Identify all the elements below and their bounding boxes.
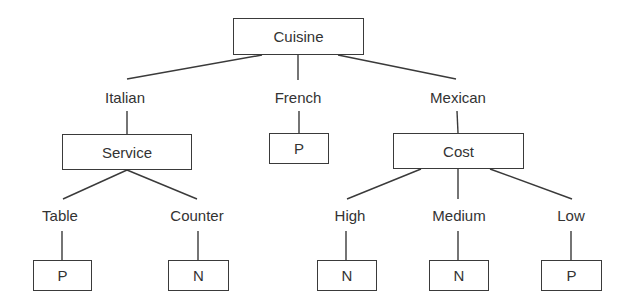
node-label: Cost: [443, 143, 474, 160]
branch-label-low: Low: [557, 207, 585, 224]
branch-label-french: French: [275, 89, 322, 106]
leaf-label: N: [342, 267, 353, 284]
leaf-french: P: [269, 133, 329, 164]
edge-cost-high: [347, 169, 421, 199]
node-label: Cuisine: [273, 28, 323, 45]
leaf-medium: N: [429, 260, 489, 291]
edge-cuisine-mexican: [338, 55, 456, 79]
branch-label-italian: Italian: [105, 89, 145, 106]
edge-service-counter: [127, 170, 197, 199]
root-node-cuisine: Cuisine: [233, 18, 364, 55]
edge-mexican-cost: [457, 111, 458, 133]
leaf-table: P: [33, 260, 92, 291]
leaf-high: N: [317, 260, 377, 291]
leaf-label: N: [454, 267, 465, 284]
branch-label-counter: Counter: [170, 207, 223, 224]
leaf-label: N: [193, 267, 204, 284]
edge-cuisine-italian: [127, 55, 262, 79]
leaf-label: P: [57, 267, 67, 284]
edge-cost-low: [490, 169, 572, 199]
node-label: Service: [102, 144, 152, 161]
node-service: Service: [62, 134, 192, 170]
edge-service-table: [63, 170, 127, 199]
branch-label-high: High: [335, 207, 366, 224]
leaf-label: P: [566, 267, 576, 284]
branch-label-mexican: Mexican: [430, 89, 486, 106]
leaf-label: P: [294, 140, 304, 157]
branch-label-medium: Medium: [432, 207, 485, 224]
leaf-counter: N: [168, 260, 229, 291]
branch-label-table: Table: [42, 207, 78, 224]
node-cost: Cost: [393, 133, 524, 169]
leaf-low: P: [541, 260, 602, 291]
